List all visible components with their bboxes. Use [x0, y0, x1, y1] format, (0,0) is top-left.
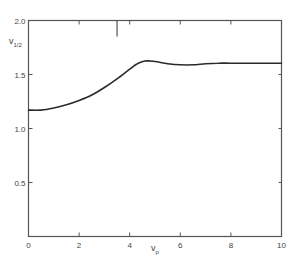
- y-tick-label: 0.5: [14, 179, 26, 188]
- x-tick-label: 10: [277, 241, 286, 250]
- y-tick-label: 1.5: [14, 71, 26, 80]
- y-axis-ticks: 0.51.01.52.0: [14, 17, 281, 188]
- y-tick-label: 1.0: [14, 125, 26, 134]
- y-axis-label: v1/2: [9, 36, 23, 48]
- plot-frame: [29, 21, 282, 237]
- line-chart: 0246810 0.51.01.52.0 v1/2 vp: [0, 0, 299, 262]
- x-tick-label: 2: [77, 241, 82, 250]
- x-tick-label: 0: [26, 241, 31, 250]
- x-tick-label: 4: [127, 241, 132, 250]
- data-curve: [29, 61, 282, 110]
- y-tick-label: 2.0: [14, 17, 26, 26]
- x-tick-label: 6: [178, 241, 183, 250]
- x-tick-label: 8: [229, 241, 234, 250]
- x-axis-ticks: 0246810: [26, 21, 286, 250]
- x-axis-label: vp: [151, 243, 160, 255]
